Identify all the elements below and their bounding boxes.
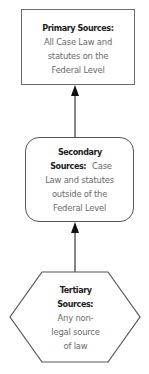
node-body-line: statutes on the [48,49,109,63]
node-body-line: legal source [51,325,99,339]
arrow-secondary-to-primary [71,85,79,137]
node-primary-sources: Primary Sources: All Case Law and statut… [21,9,135,85]
node-body-line: of law [64,339,88,353]
node-title: Sources: [57,297,93,311]
node-body-line: Any non- [58,311,94,325]
node-tertiary-sources: Tertiary Sources: Any non- legal source … [10,272,141,363]
node-title: Primary Sources: [42,20,113,35]
node-title: Tertiary [60,283,92,297]
arrowhead-icon [71,222,79,233]
node-title-line: Sources: Case [47,159,112,173]
arrow-tertiary-to-secondary [71,222,79,272]
node-body-line: Federal Level [51,63,104,77]
node-body-line: All Case Law and [44,35,112,49]
node-title: Secondary [57,145,101,159]
node-body-line: Law and statutes [45,173,114,187]
node-secondary-sources: Secondary Sources: Case Law and statutes… [25,137,134,222]
node-body-line: outside of the [52,187,107,201]
node-title: Sources: [50,159,86,173]
arrowhead-icon [71,85,79,96]
node-body-fragment: Case [90,161,112,171]
node-body-line: Federal Level [53,201,106,215]
